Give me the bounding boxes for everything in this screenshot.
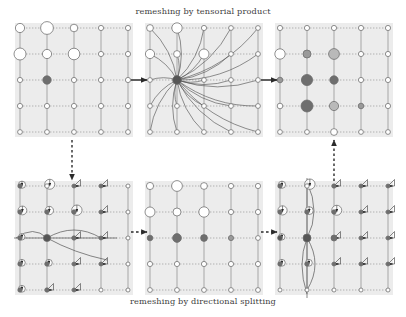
directional-splitting-intermediate-node — [173, 208, 181, 216]
directional-splitting-horizontal-node — [126, 210, 130, 214]
directional-splitting-intermediate-node — [147, 235, 153, 241]
directional-splitting-vertical-node — [278, 262, 282, 266]
tensorial-product-fan-node — [229, 78, 234, 83]
initial-mesh-coarse-node — [125, 51, 130, 56]
tensorial-product-result-node — [385, 51, 390, 56]
directional-splitting-intermediate-node — [228, 209, 233, 214]
directional-splitting-vertical-node — [305, 288, 309, 292]
directional-splitting-intermediate-node — [201, 235, 208, 242]
initial-mesh-coarse-node — [98, 51, 103, 56]
tensorial-product-fan-node — [173, 76, 182, 85]
remeshing-diagram — [0, 0, 406, 317]
initial-mesh-coarse-node — [15, 23, 24, 32]
directional-splitting-vertical-node — [278, 288, 282, 292]
initial-mesh-coarse-node — [42, 49, 51, 58]
tensorial-product-fan-node — [256, 26, 261, 31]
directional-splitting-intermediate-node — [146, 182, 153, 189]
tensorial-product-fan-node — [229, 104, 234, 109]
tensorial-product-result-node — [278, 130, 283, 135]
directional-splitting-vertical-node — [331, 235, 337, 241]
directional-splitting-vertical-node — [386, 262, 390, 266]
tensorial-product-fan-node — [256, 130, 261, 135]
initial-mesh-coarse-node — [126, 130, 131, 135]
directional-splitting-vertical-node — [386, 184, 390, 188]
directional-splitting-intermediate-node — [229, 288, 234, 293]
caption-directional-splitting: remeshing by directional splitting — [0, 296, 406, 306]
tensorial-product-result-node — [305, 130, 310, 135]
directional-splitting-horizontal-node — [18, 262, 22, 266]
directional-splitting-vertical-node — [359, 288, 363, 292]
initial-mesh-coarse-node — [14, 48, 26, 60]
directional-splitting-vertical-node — [303, 234, 311, 242]
directional-splitting-vertical-node — [359, 236, 363, 240]
directional-splitting-vertical-node — [332, 262, 336, 266]
directional-splitting-horizontal-node — [126, 262, 130, 266]
directional-splitting-horizontal-node — [99, 210, 103, 214]
directional-splitting-vertical-node — [305, 184, 309, 188]
tensorial-product-fan-node — [202, 130, 207, 135]
tensorial-product-result-node — [386, 130, 391, 135]
tensorial-product-result-node — [330, 76, 338, 84]
tensorial-product-result-node — [385, 77, 390, 82]
directional-splitting-horizontal-node — [99, 236, 103, 240]
directional-splitting-intermediate-node — [255, 209, 260, 214]
directional-splitting-intermediate-node — [201, 183, 208, 190]
tensorial-product-result-node — [385, 25, 390, 30]
directional-splitting-horizontal-node — [126, 288, 130, 292]
tensorial-product-fan-node — [148, 130, 153, 135]
directional-splitting-horizontal-node — [18, 210, 22, 214]
directional-splitting-horizontal-node — [18, 184, 22, 188]
tensorial-product-fan-node — [145, 49, 154, 58]
directional-splitting-horizontal-node — [43, 234, 50, 241]
directional-splitting-vertical-node — [305, 262, 309, 266]
tensorial-product-result-node — [329, 101, 338, 110]
initial-mesh-coarse-node — [99, 130, 104, 135]
directional-splitting-intermediate-node — [202, 288, 207, 293]
directional-splitting-horizontal-node — [45, 210, 49, 214]
directional-splitting-horizontal-node — [45, 262, 49, 266]
tensorial-product-result-node — [277, 25, 282, 30]
directional-splitting-vertical-node — [359, 262, 363, 266]
directional-splitting-intermediate-node — [228, 183, 233, 188]
directional-splitting-horizontal-node — [72, 184, 76, 188]
tensorial-product-fan-node — [175, 104, 180, 109]
initial-mesh-coarse-node — [71, 103, 76, 108]
directional-splitting-vertical-node — [359, 184, 363, 188]
directional-splitting-vertical-node — [386, 288, 390, 292]
directional-splitting-intermediate-node — [255, 183, 260, 188]
directional-splitting-vertical-node — [386, 210, 390, 214]
tensorial-product-result-node — [275, 49, 285, 59]
directional-splitting-vertical-node — [278, 184, 282, 188]
directional-splitting-intermediate-node — [199, 207, 209, 217]
tensorial-product-fan-node — [172, 23, 182, 33]
initial-mesh-coarse-node — [44, 103, 49, 108]
directional-splitting-intermediate-node — [228, 235, 233, 240]
directional-splitting-intermediate-node — [172, 181, 183, 192]
initial-mesh-coarse-node — [43, 76, 51, 84]
directional-splitting-horizontal-node — [18, 288, 22, 292]
directional-splitting-vertical-node — [332, 288, 336, 292]
tensorial-product-fan-node — [202, 104, 207, 109]
initial-mesh-coarse-node — [17, 103, 22, 108]
tensorial-product-result-node — [301, 100, 313, 112]
directional-splitting-horizontal-node — [126, 236, 130, 240]
tensorial-product-result-node — [301, 74, 312, 85]
initial-mesh-coarse-node — [125, 77, 130, 82]
directional-splitting-intermediate-node — [175, 288, 180, 293]
directional-splitting-vertical-node — [332, 210, 336, 214]
tensorial-product-result-node — [358, 25, 363, 30]
tensorial-product-fan-node — [229, 130, 234, 135]
initial-mesh-coarse-node — [68, 48, 80, 60]
tensorial-product-fan-node — [199, 49, 209, 59]
tensorial-product-result-node — [385, 103, 390, 108]
tensorial-product-fan-node — [256, 104, 261, 109]
tensorial-product-fan-node — [256, 78, 261, 83]
directional-splitting-horizontal-node — [72, 288, 76, 292]
tensorial-product-fan-node — [147, 25, 154, 32]
initial-mesh-coarse-node — [71, 77, 76, 82]
initial-mesh-coarse — [14, 22, 133, 137]
directional-splitting-vertical-node — [359, 210, 363, 214]
directional-splitting-vertical-node — [305, 210, 309, 214]
initial-mesh-coarse-node — [41, 22, 54, 35]
tensorial-product-result-node — [359, 130, 364, 135]
